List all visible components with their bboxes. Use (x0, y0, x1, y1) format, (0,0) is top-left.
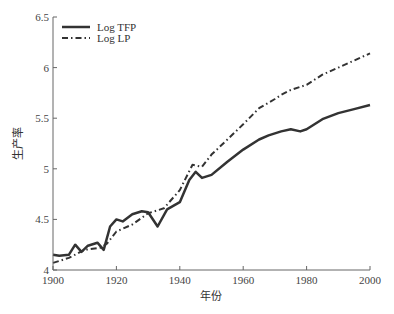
y-tick-label: 5 (44, 163, 50, 175)
x-axis-title: 年份 (200, 289, 222, 303)
x-tick-label: 2000 (359, 274, 382, 286)
x-tick-label: 1960 (232, 274, 255, 286)
y-tick-label: 5.5 (35, 112, 49, 124)
y-tick-label: 4.5 (35, 213, 49, 225)
legend: Log TFP Log LP (62, 21, 136, 44)
x-tick-label: 1900 (42, 274, 65, 286)
series-line-log-lp (53, 53, 370, 263)
line-chart: 44.555.566.5 190019201940196019802000 年份… (0, 0, 394, 314)
y-tick-label: 6.5 (35, 11, 49, 23)
x-tick-label: 1940 (169, 274, 192, 286)
plot-lines (53, 53, 370, 263)
x-tick-label: 1920 (105, 274, 128, 286)
series-line-log-tfp (53, 105, 370, 256)
x-ticks: 190019201940196019802000 (42, 266, 382, 286)
y-ticks: 44.555.566.5 (35, 11, 57, 276)
y-axis-title: 生产率 (11, 127, 25, 160)
legend-label-lp: Log LP (97, 32, 130, 44)
y-tick-label: 6 (44, 62, 50, 74)
x-tick-label: 1980 (296, 274, 319, 286)
